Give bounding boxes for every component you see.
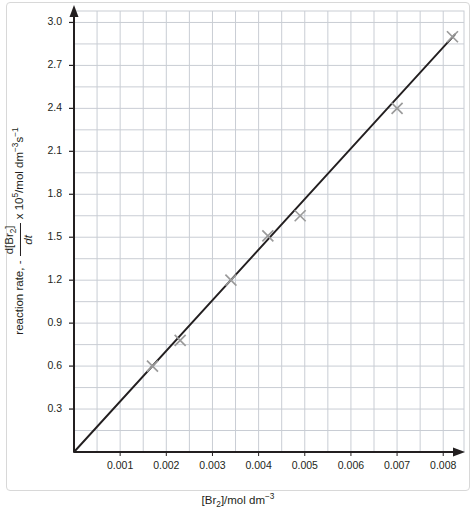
y-tick-label: 2.7 [32,58,62,70]
derivative-fraction: d[Br2]dt [3,223,35,256]
fraction-denominator: dt [21,223,35,256]
x-tick-label: 0.008 [420,459,466,471]
x-tick-label: 0.007 [374,459,420,471]
y-tick-label: 0.9 [32,316,62,328]
chart-figure: 0.30.60.91.21.51.82.12.42.73.0 0.0010.00… [0,0,476,525]
gridlines [74,11,464,452]
axis-ticks [69,22,443,456]
y-axis-title-tail: x 105/mol dm−3s−1 [13,127,25,222]
grid-boundary [74,11,464,452]
y-tick-label: 1.5 [32,230,62,242]
y-axis-title-lead: reaction rate, - [13,257,25,334]
fraction-numerator: d[Br2] [3,223,21,256]
chart-plot-area [0,0,476,525]
y-tick-label: 0.6 [32,359,62,371]
y-tick-label: 1.8 [32,187,62,199]
y-tick-label: 3.0 [32,15,62,27]
y-tick-label: 0.3 [32,402,62,414]
y-tick-label: 1.2 [32,273,62,285]
y-axis-title: reaction rate, - d[Br2]dt x 105/mol dm−3… [4,61,36,401]
y-tick-label: 2.4 [32,101,62,113]
best-fit-line [74,35,455,452]
x-axis-title: [Br2]/mol dm−3 [0,492,476,509]
data-point-marker [447,31,458,42]
x-tick-label: 0.005 [282,459,328,471]
y-tick-label: 2.1 [32,144,62,156]
x-tick-label: 0.006 [328,459,374,471]
x-tick-label: 0.003 [189,459,235,471]
x-axis-title-text: [Br2]/mol dm−3 [202,494,275,506]
x-tick-label: 0.002 [143,459,189,471]
fit-line-segment [74,35,455,452]
x-tick-label: 0.004 [236,459,282,471]
axis-lines [70,5,466,457]
x-axis-arrowhead [453,448,465,457]
x-tick-label: 0.001 [97,459,143,471]
